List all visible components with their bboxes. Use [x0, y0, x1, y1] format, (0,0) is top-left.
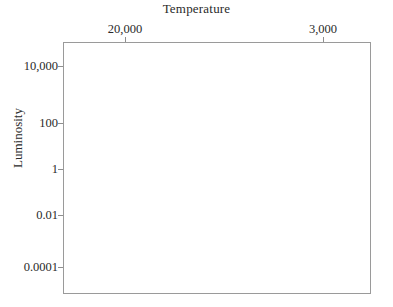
y-tick-label-100: 100 — [0, 116, 58, 131]
y-tick-label-0.0001: 0.0001 — [0, 260, 58, 275]
y-tick-label-0.01: 0.01 — [0, 208, 58, 223]
x-tick-label-3000: 3,000 — [288, 22, 358, 37]
x-tick-label-20000: 20,000 — [90, 22, 160, 37]
y-tick-label-10000: 10,000 — [0, 59, 58, 74]
hr-diagram-figure: Temperature Luminosity 20,000 3,000 10,0… — [0, 0, 393, 307]
x-axis-title: Temperature — [0, 1, 393, 17]
y-tick-label-1: 1 — [0, 162, 58, 177]
plot-frame — [63, 42, 371, 294]
